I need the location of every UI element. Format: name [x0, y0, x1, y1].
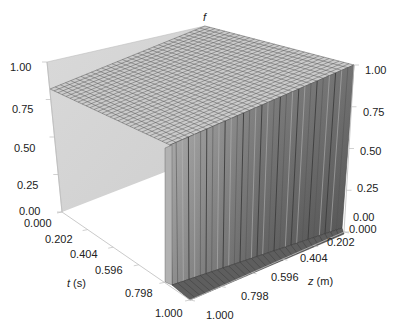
right-f-tick: 0.50 [360, 145, 381, 157]
f-axis-title: f [203, 11, 207, 23]
t-tick: 0.000 [24, 217, 52, 229]
z-tick: 0.404 [300, 252, 328, 264]
z-tick: 0.798 [241, 290, 269, 302]
z-tick: 1.000 [206, 309, 234, 321]
grid-line [221, 286, 226, 287]
grid-line [185, 300, 190, 301]
t-tick: 0.202 [45, 233, 73, 245]
grid-line [159, 282, 164, 283]
grid-line [188, 137, 189, 279]
t-tick: 0.596 [95, 264, 123, 276]
z-tick: 0.000 [349, 223, 377, 235]
right-f-tick: 0.75 [363, 106, 384, 118]
right-f-tick-labels: 1.00 0.75 0.50 0.25 0.00 [353, 64, 386, 223]
grid-line [134, 265, 139, 266]
grid-line [190, 300, 195, 301]
grid-line [108, 247, 113, 248]
z-tick: 0.596 [271, 271, 299, 283]
t-tick: 0.404 [70, 248, 98, 260]
left-f-tick: 0.75 [12, 103, 33, 115]
right-f-tick: 1.00 [365, 64, 386, 76]
fold-column [165, 145, 172, 285]
t-axis-title-unit: (s) [70, 277, 86, 289]
left-f-tick: 0.25 [17, 179, 38, 191]
right-f-tick: 0.25 [357, 182, 378, 194]
grid-line [252, 273, 257, 274]
left-f-tick: 0.50 [14, 142, 35, 154]
t-axis-title: t (s) [67, 277, 86, 289]
z-axis-title-unit: (m) [314, 275, 334, 287]
z-tick: 0.202 [327, 236, 355, 248]
z-axis-title: z (m) [307, 275, 333, 287]
grid-line [83, 230, 88, 231]
t-tick: 0.798 [125, 287, 153, 299]
right-f-tick: 0.00 [353, 211, 374, 223]
surface-plot: 1.00 0.75 0.50 0.25 0.00 1.00 0.75 0.50 … [0, 0, 399, 333]
t-tick: 1.000 [155, 307, 183, 319]
left-f-tick-labels: 1.00 0.75 0.50 0.25 0.00 [10, 61, 40, 217]
left-f-tick: 0.00 [19, 205, 40, 217]
left-f-tick: 1.00 [10, 61, 31, 73]
